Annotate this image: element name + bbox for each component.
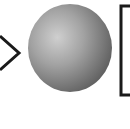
chevron-arrow-icon	[0, 36, 19, 70]
sphere	[28, 4, 112, 92]
rectangle-box	[121, 6, 130, 95]
diagram-canvas	[0, 0, 130, 129]
